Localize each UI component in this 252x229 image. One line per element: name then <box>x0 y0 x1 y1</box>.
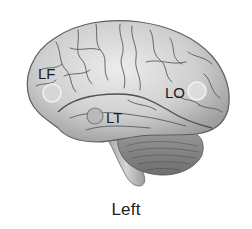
figure-caption: Left <box>0 200 252 220</box>
lo-electrode-circle <box>188 82 206 100</box>
lo-label: LO <box>165 84 185 101</box>
lf-label: LF <box>38 65 56 82</box>
lt-label: LT <box>106 109 122 126</box>
lt-electrode-circle <box>87 108 103 124</box>
brain-diagram: LF LT LO <box>0 0 252 229</box>
lf-electrode-circle <box>43 84 61 102</box>
